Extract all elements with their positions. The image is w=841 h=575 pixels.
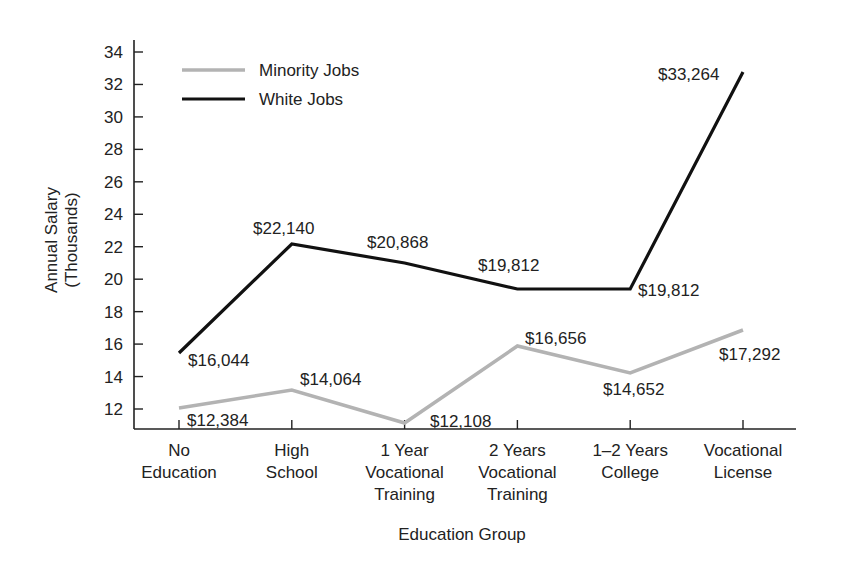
x-tick-label: Vocational bbox=[478, 463, 556, 482]
x-tick-label: No bbox=[168, 441, 190, 460]
data-label: $33,264 bbox=[658, 65, 719, 84]
x-tick-label: Vocational bbox=[365, 463, 443, 482]
y-tick-label: 26 bbox=[104, 173, 123, 192]
x-tick-label: College bbox=[601, 463, 659, 482]
y-tick-label: 20 bbox=[104, 270, 123, 289]
x-tick-label: 2 Years bbox=[489, 441, 546, 460]
y-tick-label: 22 bbox=[104, 238, 123, 257]
y-tick-label: 28 bbox=[104, 140, 123, 159]
data-label: $16,656 bbox=[525, 329, 586, 348]
y-tick-label: 30 bbox=[104, 108, 123, 127]
x-tick-label: High bbox=[274, 441, 309, 460]
legend-label: Minority Jobs bbox=[259, 61, 359, 80]
y-axis-title: (Thousands) bbox=[62, 192, 81, 287]
y-tick-label: 18 bbox=[104, 303, 123, 322]
data-label: $19,812 bbox=[478, 256, 539, 275]
data-labels: $12,384$14,064$12,108$16,656$14,652$17,2… bbox=[187, 65, 780, 431]
x-tick-label: 1–2 Years bbox=[592, 441, 668, 460]
data-label: $14,652 bbox=[603, 380, 664, 399]
data-label: $22,140 bbox=[253, 219, 314, 238]
y-tick-label: 16 bbox=[104, 335, 123, 354]
x-axis-ticks: NoEducationHighSchool1 YearVocationalTra… bbox=[141, 420, 782, 504]
y-tick-label: 12 bbox=[104, 400, 123, 419]
x-tick-label: 1 Year bbox=[380, 441, 429, 460]
data-label: $14,064 bbox=[300, 370, 361, 389]
data-label: $19,812 bbox=[638, 281, 699, 300]
y-tick-label: 34 bbox=[104, 43, 123, 62]
x-tick-label: Training bbox=[487, 485, 548, 504]
legend: Minority JobsWhite Jobs bbox=[182, 61, 359, 109]
x-tick-label: License bbox=[714, 463, 773, 482]
x-tick-label: Training bbox=[374, 485, 435, 504]
x-tick-label: School bbox=[266, 463, 318, 482]
series-lines bbox=[179, 72, 743, 423]
x-tick-label: Vocational bbox=[704, 441, 782, 460]
minority-jobs-line bbox=[179, 330, 743, 423]
y-axis-ticks: 121416182022242628303234 bbox=[104, 43, 143, 419]
x-tick-label: Education bbox=[141, 463, 217, 482]
x-axis-title: Education Group bbox=[398, 525, 526, 544]
data-label: $12,108 bbox=[430, 412, 491, 431]
line-chart: 121416182022242628303234 NoEducationHigh… bbox=[0, 0, 841, 575]
white-jobs-line bbox=[179, 72, 743, 353]
y-tick-label: 32 bbox=[104, 75, 123, 94]
y-tick-label: 24 bbox=[104, 205, 123, 224]
y-axis-title: Annual Salary bbox=[42, 187, 61, 293]
data-label: $17,292 bbox=[719, 345, 780, 364]
data-label: $12,384 bbox=[187, 411, 248, 430]
legend-label: White Jobs bbox=[259, 90, 343, 109]
data-label: $20,868 bbox=[367, 233, 428, 252]
y-tick-label: 14 bbox=[104, 368, 123, 387]
data-label: $16,044 bbox=[188, 351, 249, 370]
